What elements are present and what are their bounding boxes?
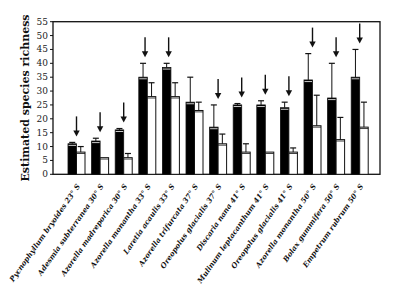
arrow-head-icon <box>333 51 339 57</box>
bar-group <box>210 79 227 174</box>
bar-chart: 0510152025303540455055 Estimated species… <box>0 0 400 303</box>
bar-group <box>186 77 203 174</box>
bar-group <box>304 28 321 175</box>
arrow-head-icon <box>165 51 171 57</box>
y-tick-label: 40 <box>37 58 49 68</box>
bar-black <box>257 105 266 174</box>
bar-black <box>280 108 289 175</box>
bar-group <box>68 116 85 174</box>
bar-white <box>147 97 156 175</box>
bar-black <box>186 102 195 174</box>
y-tick-label: 0 <box>42 169 48 179</box>
arrow-head-icon <box>121 117 127 123</box>
y-tick-label: 45 <box>37 44 49 54</box>
y-tick-label: 10 <box>37 142 49 152</box>
y-tick-label: 20 <box>37 114 49 124</box>
bar-white <box>289 152 298 174</box>
bar-black <box>92 141 101 174</box>
bar-black <box>304 80 313 174</box>
y-tick-label: 55 <box>37 17 49 27</box>
arrow-head-icon <box>97 126 103 132</box>
y-tick-label: 50 <box>37 31 49 41</box>
bar-white <box>124 158 133 175</box>
arrow-head-icon <box>286 90 292 96</box>
y-axis-label: Estimated species richness <box>19 14 32 181</box>
bar-black <box>351 77 360 174</box>
bar-groups <box>68 23 368 174</box>
bar-white <box>242 152 251 174</box>
bar-black <box>139 77 148 174</box>
bar-group <box>162 37 179 174</box>
bar-group <box>328 37 345 174</box>
arrow-head-icon <box>215 93 221 99</box>
bar-black <box>328 98 337 174</box>
bar-white <box>313 126 322 175</box>
bar-black <box>115 130 124 174</box>
bar-group <box>115 103 132 175</box>
arrow-head-icon <box>142 51 148 57</box>
arrow-head-icon <box>357 37 363 43</box>
x-axis-labels: Pycnophyllum bryoides 23° SAdesmia subte… <box>7 182 365 285</box>
bar-black <box>233 105 242 174</box>
bar-black <box>210 127 219 174</box>
bar-group <box>139 37 156 174</box>
bar-white <box>265 152 274 174</box>
bar-group <box>351 23 368 174</box>
bar-white <box>100 158 109 175</box>
bar-black <box>162 67 171 174</box>
bar-white <box>360 127 369 174</box>
y-tick-label: 35 <box>37 72 49 82</box>
y-tick-label: 5 <box>42 155 48 165</box>
bar-white <box>77 152 86 174</box>
bar-white <box>171 97 180 175</box>
bar-white <box>195 110 204 174</box>
arrow-head-icon <box>239 92 245 98</box>
bar-white <box>336 140 345 175</box>
arrow-head-icon <box>309 42 315 48</box>
y-axis: 0510152025303540455055 <box>37 17 53 180</box>
arrow-head-icon <box>73 130 79 136</box>
arrow-head-icon <box>262 89 268 95</box>
bar-white <box>218 144 227 175</box>
y-tick-label: 25 <box>37 100 49 110</box>
bar-group <box>280 76 297 174</box>
y-tick-label: 15 <box>37 128 49 138</box>
bar-group <box>233 78 250 175</box>
bar-group <box>257 75 274 175</box>
bar-black <box>68 144 77 175</box>
bar-group <box>92 112 109 174</box>
y-tick-label: 30 <box>37 86 49 96</box>
